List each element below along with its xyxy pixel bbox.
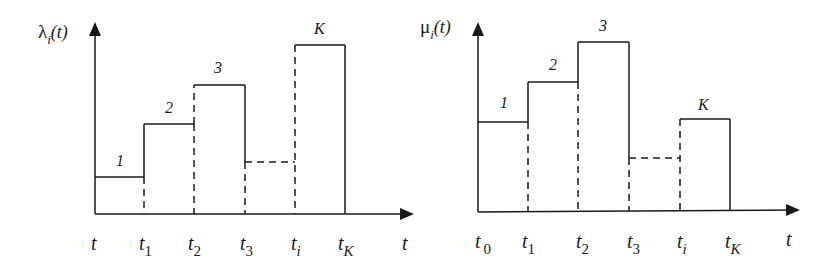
mu-steps	[478, 42, 730, 212]
lambda-segment-label-k: K	[313, 20, 326, 37]
mu-x-axis-arrow-icon	[786, 204, 800, 216]
lambda-segment-label-2: 2	[165, 99, 173, 116]
mu-segment-label-k: K	[697, 96, 710, 113]
lambda-x-ticks: t t1 t2 t3 ti tK t	[91, 232, 408, 259]
lambda-tick-t: t	[91, 232, 97, 254]
lambda-tick-t3: t3	[240, 232, 253, 259]
diagram-canvas: λi(t) 1 2 3 K t t1 t2 t3 ti tK t	[0, 0, 831, 280]
lambda-y-axis-arrow-icon	[89, 22, 101, 36]
lambda-segment-label-3: 3	[213, 59, 222, 76]
mu-tick-t2: t2	[576, 230, 589, 257]
mu-x-ticks: t0 t1 t2 t3 ti tK t	[475, 228, 792, 257]
lambda-x-axis-label: t	[402, 232, 408, 254]
mu-tick-tk: tK	[725, 230, 742, 257]
lambda-tick-tk: tK	[338, 232, 355, 259]
lambda-segment-label-1: 1	[116, 152, 124, 169]
mu-segment-label-3: 3	[598, 17, 607, 34]
lambda-tick-t2: t2	[188, 232, 201, 259]
mu-segment-label-2: 2	[549, 56, 557, 73]
lambda-x-axis-arrow-icon	[400, 208, 414, 220]
lambda-tick-ti: ti	[291, 232, 301, 259]
lambda-y-label: λi(t)	[38, 21, 68, 47]
mu-y-axis-arrow-icon	[472, 22, 484, 36]
mu-tick-t1: t1	[522, 230, 535, 257]
mu-x-axis-label: t	[786, 228, 792, 250]
mu-chart: μi(t) 1 2 3 K t0 t1 t2 t3 ti tK t	[420, 16, 800, 257]
mu-tick-ti: ti	[677, 230, 687, 257]
mu-segment-label-1: 1	[500, 94, 508, 111]
lambda-chart: λi(t) 1 2 3 K t t1 t2 t3 ti tK t	[38, 20, 414, 259]
mu-tick-t3: t3	[627, 230, 640, 257]
mu-y-label: μi(t)	[420, 16, 451, 42]
mu-x-axis	[478, 210, 790, 212]
lambda-tick-t1: t1	[139, 232, 152, 259]
mu-tick-t0: t0	[475, 230, 491, 257]
